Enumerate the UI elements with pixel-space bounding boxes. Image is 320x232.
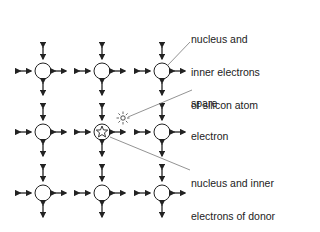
spare-electron-label: spare electron [191,76,228,153]
silicon-atom-icon [94,185,110,201]
donor-atom-label: nucleus and inner electrons of donor imp… [191,156,275,232]
silicon-atom-icon [154,185,170,201]
ray-icon [118,113,120,115]
spare-electron-icon [121,116,125,120]
silicon-atom-icon [94,63,110,79]
ray-icon [118,121,120,123]
ray-icon [126,121,128,123]
spare-leader-line [128,90,192,117]
silicon-atom-icon [35,63,51,79]
silicon-leader-line [168,42,190,65]
silicon-atom-icon [154,63,170,79]
donor-leader-line [110,137,190,170]
label-line: nucleus and inner [191,178,275,189]
label-line: electron [191,131,228,142]
ray-icon [126,113,128,115]
silicon-atom-icon [35,124,51,140]
silicon-atom-icon [154,124,170,140]
label-line: nucleus and [191,34,260,45]
label-line: electrons of donor [191,211,275,222]
label-line: spare [191,98,228,109]
silicon-atom-icon [35,185,51,201]
